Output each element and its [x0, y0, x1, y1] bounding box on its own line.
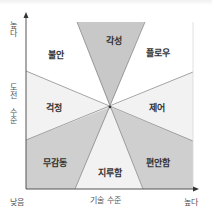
y-axis-title: 도전 수준	[8, 83, 16, 124]
label-apathy: 무감동	[43, 156, 67, 169]
label-relaxation: 편안함	[146, 156, 170, 169]
x-axis-high-label: 높다	[184, 196, 198, 207]
x-axis-arrow-icon	[193, 187, 199, 192]
x-axis-title: 기술 수준	[90, 194, 121, 205]
center-point	[109, 106, 112, 109]
label-worry: 걱정	[46, 101, 62, 114]
label-arousal: 각성	[106, 34, 122, 47]
y-axis-arrow-icon	[24, 12, 29, 18]
y-axis-high-label: 높다	[8, 21, 16, 37]
label-flow: 플로우	[146, 46, 170, 59]
origin-label: 낮음	[10, 196, 24, 207]
label-anxiety: 불안	[48, 48, 64, 61]
label-boredom: 지루함	[98, 166, 122, 179]
label-control: 제어	[149, 101, 165, 114]
